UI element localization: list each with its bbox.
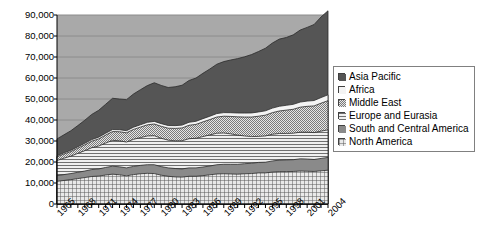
x-axis-tick-label: 1998 [284, 196, 306, 218]
x-axis-tick-label: 1974 [118, 196, 140, 218]
chart-legend: Asia PacificAfricaMiddle EastEurope and … [333, 66, 475, 152]
legend-label: Europe and Eurasia [349, 110, 437, 121]
x-axis-tick-label: 2004 [326, 196, 348, 218]
legend-label: Middle East [349, 97, 401, 108]
x-axis-tick-label: 1965 [55, 196, 77, 218]
legend-item: Middle East [338, 96, 469, 109]
x-axis-tick-label: 1995 [263, 196, 285, 218]
x-axis-tick-label: 1980 [159, 196, 181, 218]
legend-swatch-dark-gray [338, 73, 345, 80]
legend-swatch-horizontal-lines [338, 112, 345, 119]
legend-label: South and Central America [349, 123, 469, 134]
x-axis-tick-label: 1977 [138, 196, 160, 218]
legend-swatch-grid-crosshatch [338, 138, 345, 145]
x-axis-tick-label: 2001 [305, 196, 327, 218]
legend-swatch-fine-checker [338, 99, 345, 106]
chart-figure: 010,00020,00030,00040,00050,00060,00070,… [0, 0, 490, 250]
legend-label: North America [349, 136, 412, 147]
legend-swatch-light-plain [338, 86, 345, 93]
x-axis-tick-label: 1992 [243, 196, 265, 218]
legend-item: Africa [338, 83, 469, 96]
x-axis-tick-label: 1989 [222, 196, 244, 218]
x-axis-tick-label: 1986 [201, 196, 223, 218]
legend-item: Europe and Eurasia [338, 109, 469, 122]
legend-label: Africa [349, 84, 375, 95]
x-axis-tick-label: 1983 [180, 196, 202, 218]
x-axis-tick-label: 1968 [76, 196, 98, 218]
legend-item: North America [338, 135, 469, 148]
legend-label: Asia Pacific [349, 71, 401, 82]
x-axis-tick-label: 1971 [97, 196, 119, 218]
legend-swatch-solid-gray [338, 125, 345, 132]
legend-item: Asia Pacific [338, 70, 469, 83]
legend-item: South and Central America [338, 122, 469, 135]
